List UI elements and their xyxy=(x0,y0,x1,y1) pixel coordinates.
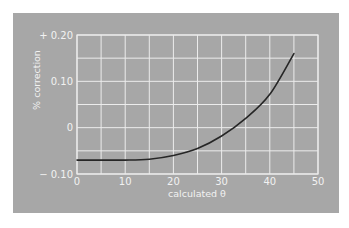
x-axis-label: calculated θ xyxy=(168,188,226,199)
x-tick-label: 20 xyxy=(167,176,180,187)
grid-lines xyxy=(77,35,318,174)
x-tick-label: 10 xyxy=(119,176,132,187)
series-group xyxy=(77,54,294,161)
y-axis-label: % correction xyxy=(31,50,42,110)
series-line-correction xyxy=(77,54,294,161)
x-tick-labels: 01020304050 xyxy=(74,176,325,187)
y-tick-label: 0.10 xyxy=(51,76,73,87)
x-tick-label: 0 xyxy=(74,176,80,187)
y-tick-label: + 0.20 xyxy=(39,30,73,41)
x-tick-label: 30 xyxy=(215,176,228,187)
correction-chart: 01020304050 − 0.1000.10+ 0.20 calculated… xyxy=(0,0,349,228)
y-tick-labels: − 0.1000.10+ 0.20 xyxy=(39,30,73,180)
y-tick-label: 0 xyxy=(67,122,73,133)
y-tick-label: − 0.10 xyxy=(39,169,73,180)
x-tick-label: 40 xyxy=(263,176,276,187)
x-tick-label: 50 xyxy=(312,176,325,187)
